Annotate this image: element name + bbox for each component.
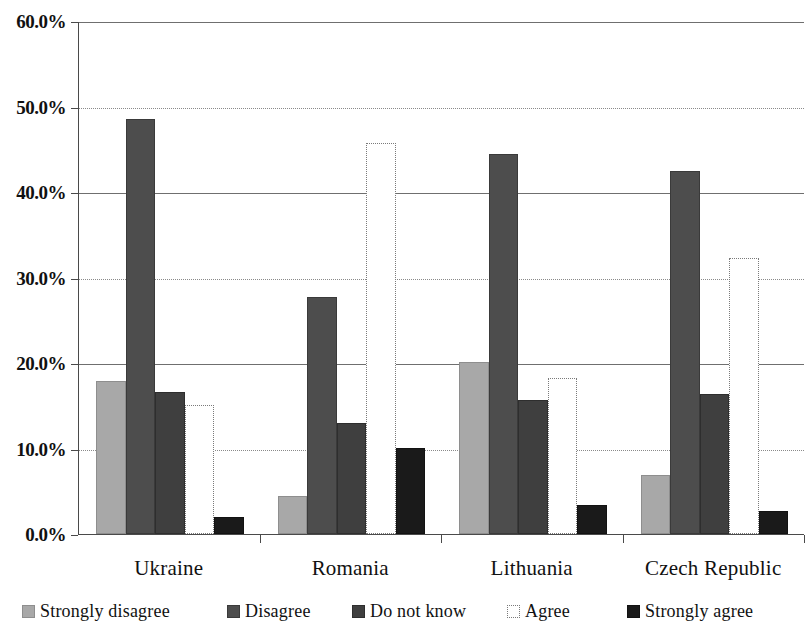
- bar: [577, 505, 607, 534]
- y-axis-tick-label: 40.0%: [16, 182, 66, 204]
- y-axis-tick-mark: [71, 450, 78, 451]
- bar: [366, 143, 396, 534]
- bar: [278, 496, 308, 534]
- legend-label: Disagree: [245, 601, 311, 622]
- bar: [459, 362, 489, 534]
- legend-item-disagree[interactable]: Disagree: [227, 601, 311, 622]
- category-tick: [441, 535, 442, 543]
- y-axis-tick-mark: [71, 279, 78, 280]
- category-tick: [260, 535, 261, 543]
- legend-swatch-icon: [22, 605, 35, 618]
- legend-label: Strongly disagree: [40, 601, 170, 622]
- bar: [185, 405, 215, 534]
- bar: [729, 258, 759, 534]
- plot-area: [78, 22, 804, 535]
- y-axis-tick-mark: [71, 535, 78, 536]
- legend-swatch-icon: [627, 605, 640, 618]
- bar: [155, 392, 185, 534]
- bar: [670, 171, 700, 534]
- category-tick: [804, 535, 805, 543]
- bar: [126, 119, 156, 534]
- legend-swatch-icon: [352, 605, 365, 618]
- y-axis-tick-label: 60.0%: [16, 11, 66, 33]
- category-label-romania: Romania: [312, 556, 389, 581]
- bar: [337, 423, 367, 534]
- bar: [700, 394, 730, 534]
- category-label-czech-republic: Czech Republic: [645, 556, 781, 581]
- bar: [641, 475, 671, 534]
- gridline: [79, 108, 804, 109]
- y-axis-tick-mark: [71, 364, 78, 365]
- legend-swatch-icon: [227, 605, 240, 618]
- category-label-ukraine: Ukraine: [134, 556, 203, 581]
- bar: [518, 400, 548, 534]
- y-axis-tick-label: 50.0%: [16, 97, 66, 119]
- legend-label: Do not know: [370, 601, 466, 622]
- legend-item-do-not-know[interactable]: Do not know: [352, 601, 466, 622]
- bar: [96, 381, 126, 534]
- bar: [214, 517, 244, 534]
- bar: [489, 154, 519, 534]
- bar: [396, 448, 426, 534]
- legend-item-agree[interactable]: Agree: [507, 601, 570, 622]
- legend-item-strongly-disagree[interactable]: Strongly disagree: [22, 601, 170, 622]
- bar-chart: 0.0%10.0%20.0%30.0%40.0%50.0%60.0% Ukrai…: [0, 0, 806, 628]
- legend-label: Strongly agree: [645, 601, 753, 622]
- bar: [548, 378, 578, 534]
- category-tick: [623, 535, 624, 543]
- y-axis-labels: 0.0%10.0%20.0%30.0%40.0%50.0%60.0%: [0, 0, 72, 628]
- bar: [759, 511, 789, 534]
- y-axis-tick-label: 30.0%: [16, 268, 66, 290]
- y-axis-tick-mark: [71, 22, 78, 23]
- y-axis-tick-label: 0.0%: [25, 524, 66, 546]
- legend-label: Agree: [525, 601, 570, 622]
- y-axis-tick-label: 10.0%: [16, 439, 66, 461]
- category-label-lithuania: Lithuania: [491, 556, 573, 581]
- gridline: [79, 22, 804, 23]
- legend-item-strongly-agree[interactable]: Strongly agree: [627, 601, 753, 622]
- legend-swatch-icon: [507, 605, 520, 618]
- chart-legend: Strongly disagreeDisagreeDo not knowAgre…: [22, 598, 792, 624]
- y-axis-tick-mark: [71, 108, 78, 109]
- y-axis-tick-label: 20.0%: [16, 353, 66, 375]
- bar: [307, 297, 337, 534]
- y-axis-tick-mark: [71, 193, 78, 194]
